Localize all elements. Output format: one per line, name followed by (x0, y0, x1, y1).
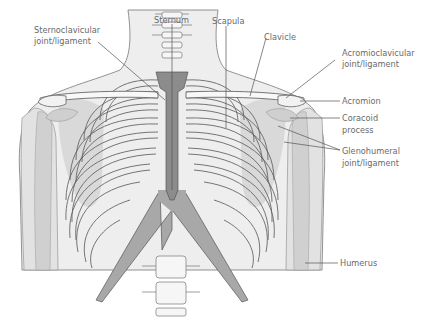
thorax-diagram: Sternoclavicular joint/ligament Sternum … (0, 0, 421, 328)
label-sternoclavicular-line1: Sternoclavicular (34, 25, 101, 35)
label-acromion: Acromion (342, 96, 381, 106)
label-glenohumeral-line2: joint/ligament (341, 158, 400, 168)
leader-acromioclavicular (286, 60, 335, 98)
label-acromioclavicular-line1: Acromioclavicular (342, 48, 415, 58)
label-scapula: Scapula (212, 16, 244, 26)
label-humerus: Humerus (340, 258, 377, 268)
label-coracoid-line1: Coracoid (342, 113, 378, 123)
label-glenohumeral-line1: Glenohumeral (342, 146, 400, 156)
label-coracoid-line2: process (342, 125, 373, 135)
humerus-right (286, 108, 323, 270)
label-sternoclavicular-line2: joint/ligament (33, 36, 92, 46)
label-acromioclavicular-line2: joint/ligament (341, 59, 400, 69)
label-clavicle: Clavicle (264, 32, 296, 42)
humerus-left (21, 108, 58, 270)
label-sternum: Sternum (154, 15, 189, 25)
